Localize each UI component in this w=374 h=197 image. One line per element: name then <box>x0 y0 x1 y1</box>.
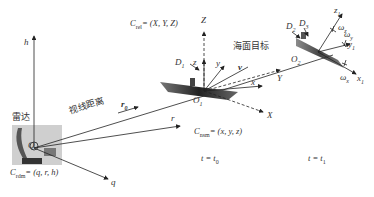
omega-y-label: ωy <box>344 30 353 41</box>
navigation-coordinate-system: Cnsm= (x, y, z) <box>194 127 242 138</box>
axis-label-X: X <box>267 111 273 120</box>
time-label-t1: t = t1 <box>308 154 326 165</box>
velocity-label-v: v <box>238 63 242 72</box>
ship-label-d1: D1 <box>175 58 185 69</box>
origin-label-o1: O1 <box>193 96 203 107</box>
axis-label-h: h <box>24 38 29 47</box>
radar-coordinate-system: Crdm= (q, r, h) <box>10 168 58 179</box>
axis-label-Z: Z <box>201 16 206 25</box>
radar-label: 雷达 <box>12 113 30 122</box>
ship-label-d3: D3 <box>299 19 309 30</box>
sea-target-label: 海面目标 <box>233 42 269 51</box>
time-label-t0: t = t0 <box>201 154 219 165</box>
origin-label-q: Q <box>28 141 35 150</box>
axis-label-r: r <box>171 114 175 123</box>
axis-label-x: x <box>251 78 255 87</box>
ship-label-d2: D2 <box>286 22 296 33</box>
diagram-canvas: h q r r0 Q 雷达 视线距离 海面目标 Crdm= (q, r, h) … <box>0 0 374 197</box>
origin-label-o2: O2 <box>291 55 301 66</box>
axis-label-y1: y1 <box>348 40 355 51</box>
axis-label-x1: x1 <box>357 74 364 85</box>
axis-label-z: z <box>193 58 197 67</box>
axis-label-y: y <box>216 59 220 68</box>
axis-label-q: q <box>111 178 116 187</box>
omega-x-label: ωx <box>340 73 349 84</box>
axis-label-r0: r0 <box>121 100 128 111</box>
axis-label-z1: z1 <box>334 6 341 17</box>
relative-coordinate-system: Crel= (X, Y, Z) <box>130 19 178 30</box>
axis-label-Y: Y <box>277 74 282 83</box>
